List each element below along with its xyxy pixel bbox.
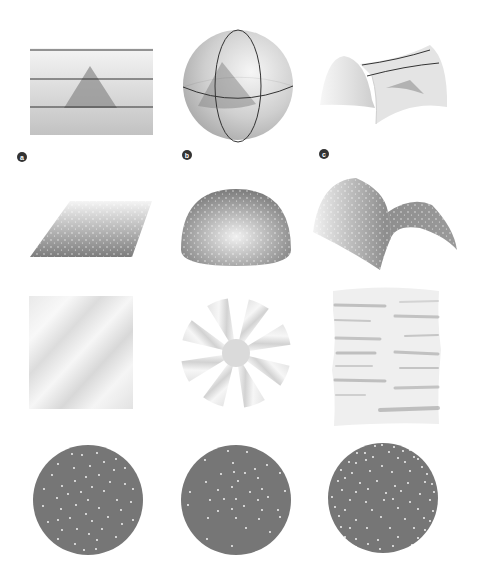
svg-text:b: b (185, 152, 189, 159)
dotted-saddle-sheet (313, 178, 457, 270)
label-c: c (319, 149, 329, 159)
panel-a-flat-plane (30, 48, 153, 135)
svg-text:a: a (20, 154, 24, 161)
cut-disk-wedges (180, 297, 291, 408)
panel-b-sphere (183, 30, 293, 142)
dotted-flat-sheet (30, 201, 152, 257)
svg-text:c: c (322, 151, 326, 158)
label-b: b (182, 150, 192, 160)
ruffled-sheet (332, 288, 441, 427)
dotted-hemisphere (181, 189, 291, 266)
figure-canvas: a b c (0, 0, 478, 573)
disk-uniform-dots (33, 445, 143, 555)
disk-sparse-dots (181, 445, 291, 555)
disk-dense-edge-dots (328, 443, 438, 553)
flat-square-sheet (29, 296, 133, 409)
panel-c-saddle (320, 45, 447, 124)
label-a: a (17, 152, 27, 162)
